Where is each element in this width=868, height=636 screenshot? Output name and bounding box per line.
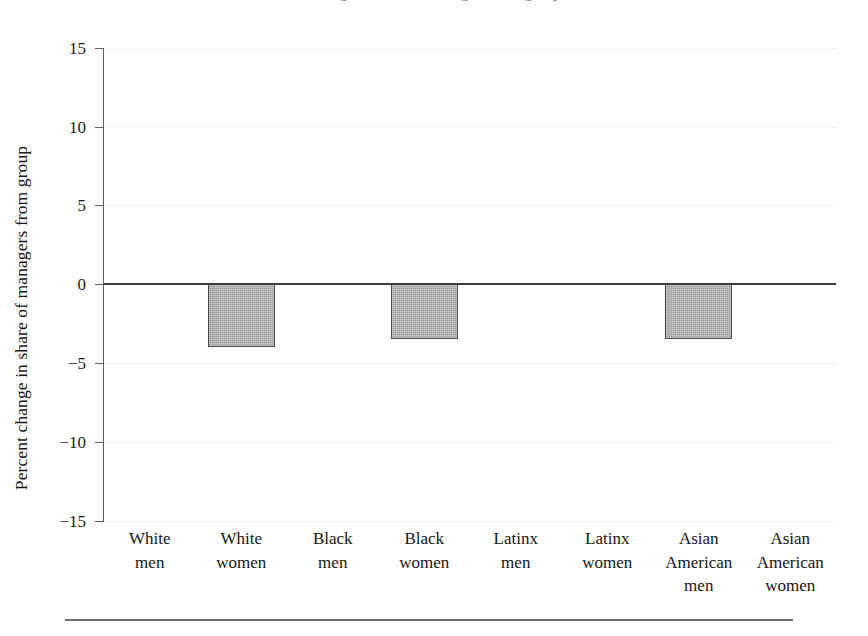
x-label-line: men: [104, 551, 196, 575]
bar-black-women[interactable]: [391, 284, 458, 339]
figure-title-text: Change in share of managers from group: [0, 0, 868, 2]
y-tick-mark-neg-10: [95, 442, 104, 443]
x-label-white-men: Whitemen: [104, 527, 196, 574]
x-label-latinx-women: Latinxwomen: [562, 527, 654, 574]
x-label-line: Black: [379, 527, 471, 551]
x-label-line: White: [196, 527, 288, 551]
y-tick-label-neg-5: −5: [28, 355, 86, 372]
x-label-line: women: [196, 551, 288, 575]
figure-title: Change in share of managers from group: [0, 0, 868, 12]
x-label-line: White: [104, 527, 196, 551]
x-label-line: women: [379, 551, 471, 575]
x-label-line: Black: [287, 527, 379, 551]
x-label-line: men: [653, 574, 745, 598]
x-label-black-men: Blackmen: [287, 527, 379, 574]
y-tick-label-10: 10: [28, 119, 86, 136]
bar-asian-american-men[interactable]: [665, 284, 732, 339]
y-tick-mark-neg-5: [95, 363, 104, 364]
x-label-line: men: [470, 551, 562, 575]
x-label-line: American: [745, 551, 837, 575]
x-label-line: Asian: [745, 527, 837, 551]
bottom-rule: [65, 619, 793, 621]
y-tick-mark-5: [95, 205, 104, 206]
x-label-line: women: [562, 551, 654, 575]
x-label-line: men: [287, 551, 379, 575]
x-label-line: Asian: [653, 527, 745, 551]
x-label-line: Latinx: [562, 527, 654, 551]
x-label-black-women: Blackwomen: [379, 527, 471, 574]
x-label-line: American: [653, 551, 745, 575]
zero-baseline: [104, 283, 836, 285]
x-label-asian-american-men: AsianAmericanmen: [653, 527, 745, 598]
y-tick-mark-10: [95, 127, 104, 128]
y-tick-label-neg-10: −10: [28, 434, 86, 451]
y-tick-mark-0: [95, 284, 104, 285]
x-label-line: Latinx: [470, 527, 562, 551]
x-label-white-women: Whitewomen: [196, 527, 288, 574]
x-label-latinx-men: Latinxmen: [470, 527, 562, 574]
x-axis-labels: WhitemenWhitewomenBlackmenBlackwomenLati…: [104, 527, 836, 607]
x-label-asian-american-women: AsianAmericanwomen: [745, 527, 837, 598]
y-axis-tick-labels: 15 10 5 0 −5 −10 −15: [28, 0, 86, 636]
gridline-neg-15: [104, 521, 836, 522]
y-tick-label-15: 15: [28, 40, 86, 57]
y-tick-label-5: 5: [28, 197, 86, 214]
y-tick-mark-15: [95, 48, 104, 49]
y-tick-mark-neg-15: [95, 521, 104, 522]
y-tick-label-0: 0: [28, 276, 86, 293]
y-tick-label-neg-15: −15: [28, 513, 86, 530]
bar-white-women[interactable]: [208, 284, 275, 347]
x-label-line: women: [745, 574, 837, 598]
